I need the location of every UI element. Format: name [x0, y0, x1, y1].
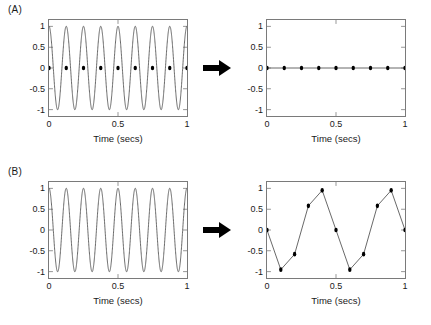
panel-b-right-ytick-3: -0.5 — [247, 246, 263, 256]
panel-a-left-ytick-0: 1 — [40, 21, 45, 31]
panel-b-left-ytick-1: 0.5 — [32, 204, 45, 214]
panel-b-left-xtick-0: 0 — [46, 281, 51, 291]
sample-point — [151, 66, 154, 71]
panel-b-right-ytick-0: 1 — [258, 183, 263, 193]
sample-point — [390, 188, 393, 193]
panel-b-left-ytick-0: 1 — [40, 183, 45, 193]
panel-b-right-plot-canvas — [267, 182, 405, 278]
sample-point — [376, 203, 379, 208]
panel-a-right-ytick-3: -0.5 — [247, 84, 263, 94]
aliasing-figure: (A) — [0, 0, 431, 325]
panel-a-right-ytick-0: 1 — [258, 21, 263, 31]
sample-point — [134, 66, 137, 71]
panel-b-right-xtick-1: 0.5 — [330, 281, 343, 291]
panel-a-right-ytick-4: -1 — [255, 105, 263, 115]
panel-a-right-xtick-0: 0 — [264, 119, 269, 129]
panel-a-left-ytick-2: 0 — [40, 63, 45, 73]
panel-a-left-ytick-3: -0.5 — [29, 84, 45, 94]
panel-b-right-plot-area: 1 0.5 0 -0.5 -1 0 0.5 1 Time (secs) — [266, 181, 406, 279]
panel-b-right-ytick-4: -1 — [255, 267, 263, 277]
panel-b-left-plot: 1 0.5 0 -0.5 -1 0 0.5 1 Time (secs) — [10, 176, 200, 324]
sample-point — [168, 66, 171, 71]
sample-point — [334, 228, 337, 233]
sample-point — [334, 66, 337, 71]
panel-a-right-plot-area: 1 0.5 0 -0.5 -1 0 0.5 1 Time (secs) — [266, 19, 406, 117]
sample-point — [321, 188, 324, 193]
sample-markers — [267, 188, 405, 272]
panel-b-right-ytick-2: 0 — [258, 225, 263, 235]
sample-point — [65, 66, 68, 71]
panel-a-left-xtick-2: 1 — [184, 119, 189, 129]
sample-point — [317, 66, 320, 71]
panel-a-right-ytick-1: 0.5 — [250, 42, 263, 52]
sample-point — [386, 66, 389, 71]
panel-a-right-plot: 1 0.5 0 -0.5 -1 0 0.5 1 Time (secs) — [228, 14, 418, 162]
sample-point — [82, 66, 85, 71]
panel-b-left-ytick-2: 0 — [40, 225, 45, 235]
panel-b-left-xtick-1: 0.5 — [112, 281, 125, 291]
panel-a-left-xtick-1: 0.5 — [112, 119, 125, 129]
panel-a-left-xlabel: Time (secs) — [93, 133, 142, 144]
panel-b-left-plot-area: 1 0.5 0 -0.5 -1 0 0.5 1 Time (secs) — [48, 181, 188, 279]
panel-b-right-plot: 1 0.5 0 -0.5 -1 0 0.5 1 Time (secs) — [228, 176, 418, 324]
sample-point — [279, 267, 282, 272]
sample-point — [267, 66, 269, 71]
panel-a-left-ytick-1: 0.5 — [32, 42, 45, 52]
panel-a-right-xlabel: Time (secs) — [311, 133, 360, 144]
panel-a-left-plot-area: 1 0.5 0 -0.5 -1 0 0.5 1 Time (secs) — [48, 19, 188, 117]
sample-point — [99, 66, 102, 71]
sample-point — [185, 66, 187, 71]
sample-point — [307, 203, 310, 208]
panel-a-left-ytick-4: -1 — [37, 105, 45, 115]
panel-b-right-ytick-1: 0.5 — [250, 204, 263, 214]
panel-b-left-xtick-2: 1 — [184, 281, 189, 291]
sample-point — [283, 66, 286, 71]
sample-point — [403, 228, 405, 233]
panel-a-right-xtick-2: 1 — [402, 119, 407, 129]
panel-a: (A) — [0, 0, 431, 162]
panel-a-right-ytick-2: 0 — [258, 63, 263, 73]
sample-markers — [49, 66, 187, 71]
y-axis-ticks — [49, 188, 187, 271]
panel-b-left-ytick-3: -0.5 — [29, 246, 45, 256]
panel-a-left-plot-canvas — [49, 20, 187, 116]
sample-point — [300, 66, 303, 71]
sample-point — [403, 66, 405, 71]
sample-point — [267, 228, 269, 233]
panel-b-left-xlabel: Time (secs) — [93, 295, 142, 306]
sample-point — [348, 267, 351, 272]
panel-a-left-xtick-0: 0 — [46, 119, 51, 129]
sample-point — [362, 252, 365, 257]
panel-b-right-xlabel: Time (secs) — [311, 295, 360, 306]
panel-b-left-plot-canvas — [49, 182, 187, 278]
continuous-waveform — [49, 188, 187, 271]
sample-point — [293, 252, 296, 257]
sample-point — [369, 66, 372, 71]
sample-point — [116, 66, 119, 71]
panel-b-right-xtick-0: 0 — [264, 281, 269, 291]
panel-a-left-plot: 1 0.5 0 -0.5 -1 0 0.5 1 Time (secs) — [10, 14, 200, 162]
sample-point — [352, 66, 355, 71]
panel-a-right-plot-canvas — [267, 20, 405, 116]
panel-b-right-xtick-2: 1 — [402, 281, 407, 291]
panel-b: (B) — [0, 162, 431, 324]
sample-point — [49, 66, 51, 71]
panel-b-left-ytick-4: -1 — [37, 267, 45, 277]
panel-a-right-xtick-1: 0.5 — [330, 119, 343, 129]
